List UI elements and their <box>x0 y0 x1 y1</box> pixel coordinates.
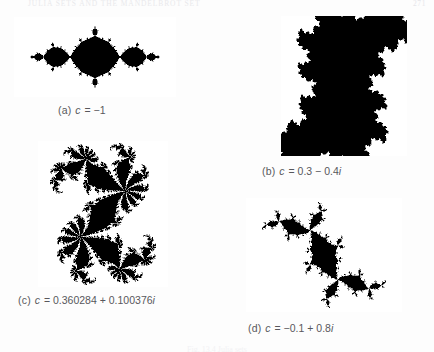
caption-label-b: (b) <box>262 165 275 177</box>
julia-canvas-b <box>281 16 407 156</box>
julia-figure-a <box>14 17 176 97</box>
caption-value-c: 0.360284 + 0.100376 <box>53 294 153 306</box>
julia-canvas-a <box>14 17 176 97</box>
caption-value-a: −1 <box>94 104 106 116</box>
caption-variable-c: c <box>34 294 41 306</box>
caption-figure-c: (c) c = 0.360284 + 0.100376i <box>18 294 155 306</box>
caption-variable-b: c <box>278 165 285 177</box>
caption-imaginary-unit-c: i <box>153 294 155 306</box>
textbook-page: JULIA SETS AND THE MANDELBROT SET 271 (a… <box>0 0 434 352</box>
running-head: JULIA SETS AND THE MANDELBROT SET <box>28 0 201 8</box>
julia-figure-c <box>38 141 168 287</box>
julia-figure-d <box>246 198 402 312</box>
caption-label-c: (c) <box>18 294 31 306</box>
caption-equals-d: = <box>275 322 281 334</box>
caption-equals-b: = <box>289 165 295 177</box>
caption-value-b: 0.3 − 0.4 <box>298 165 339 177</box>
caption-imaginary-unit-d: i <box>331 322 333 334</box>
caption-label-d: (d) <box>248 322 261 334</box>
julia-figure-b <box>281 16 407 156</box>
caption-variable-d: c <box>264 322 271 334</box>
caption-equals-a: = <box>85 104 91 116</box>
caption-figure-b: (b) c = 0.3 − 0.4i <box>262 165 341 177</box>
caption-figure-d: (d) c = −0.1 + 0.8i <box>248 322 333 334</box>
caption-figure-a: (a) c = −1 <box>58 104 106 116</box>
caption-value-d: −0.1 + 0.8 <box>284 322 331 334</box>
julia-canvas-c <box>38 141 168 287</box>
julia-canvas-d <box>246 198 402 312</box>
caption-equals-c: = <box>44 294 50 306</box>
figure-caption: Fig. 13.4 Julia sets <box>0 345 434 352</box>
caption-label-a: (a) <box>58 104 71 116</box>
caption-variable-a: c <box>74 104 81 116</box>
caption-imaginary-unit-b: i <box>339 165 341 177</box>
page-number: 271 <box>413 0 426 8</box>
